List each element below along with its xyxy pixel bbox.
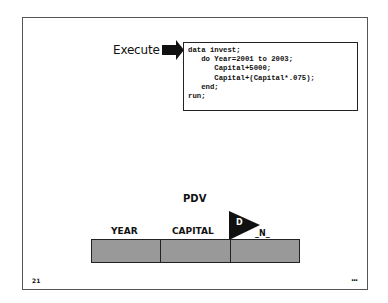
pdv-column-capital: CAPITAL [172,226,214,236]
page-number: 21 [32,277,40,284]
pdv-cell-capital [161,240,230,262]
code-line: data invest; [188,46,357,55]
code-line: end; [188,83,357,92]
code-line: do Year=2001 to 2003; [188,55,357,64]
code-line: Capital+5000; [188,64,357,73]
flag-letter: D [236,218,243,227]
execute-label: Execute [113,43,160,57]
pdv-row [91,239,300,263]
pdv-title: PDV [183,193,206,204]
code-line: Capital+(Capital*.075); [188,74,357,83]
code-line: run; [188,92,357,101]
pdv-cell-year [92,240,161,262]
pdv-column-year: YEAR [111,226,138,236]
more-indicator: ... [351,274,357,283]
code-block: data invest; do Year=2001 to 2003; Capit… [183,42,358,111]
pdv-cell-n [231,240,299,262]
pdv-column-n: _N_ [255,229,270,238]
